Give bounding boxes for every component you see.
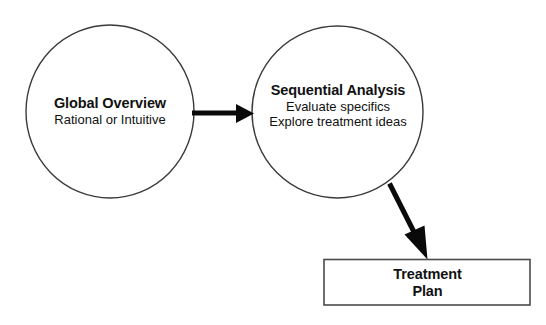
connector-sequential-to-treatment-shaft [390,184,417,237]
node-treatment-plan-label: Treatment Plan [324,266,531,300]
node-global-overview-subtitle-1: Rational or Intuitive [26,112,194,127]
connector-sequential-to-treatment[interactable] [390,184,428,260]
node-sequential-analysis-title: Sequential Analysis [252,82,424,99]
node-treatment-plan-title-line-1: Treatment [324,266,531,283]
node-sequential-analysis-subtitle-2: Explore treatment ideas [252,114,424,129]
node-sequential-analysis-label: Sequential Analysis Evaluate specifics E… [252,82,424,130]
node-global-overview-label: Global Overview Rational or Intuitive [26,95,194,127]
node-treatment-plan-title-line-2: Plan [324,283,531,300]
connector-sequential-to-treatment-arrowhead [405,226,428,260]
diagram-canvas: Global Overview Rational or Intuitive Se… [0,0,546,325]
connector-global-to-sequential[interactable] [192,104,254,123]
node-global-overview-title: Global Overview [26,95,194,112]
node-sequential-analysis-subtitle-1: Evaluate specifics [252,99,424,114]
